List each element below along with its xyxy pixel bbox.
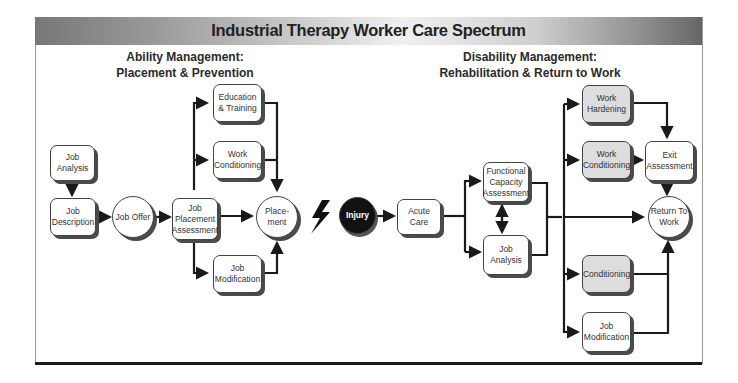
node-job-analysis-right: Job Analysis [483, 235, 529, 275]
node-work-conditioning-left: Work Conditioning [213, 141, 262, 179]
node-exit-assessment: Exit Assessment [645, 141, 694, 181]
node-education-training: Education & Training [213, 84, 262, 122]
node-placement: Place- ment [256, 196, 298, 238]
node-return-to-work: Return To Work [648, 196, 690, 238]
node-conditioning: Conditioning [582, 255, 631, 293]
node-job-modification-left: Job Modification [213, 255, 262, 293]
node-job-placement-assessment: Job Placement Assessment [172, 198, 218, 240]
node-job-modification-right: Job Modification [582, 312, 631, 352]
bottom-rule [35, 362, 702, 365]
node-job-description: Job Description [50, 198, 96, 236]
node-job-analysis-left: Job Analysis [50, 145, 95, 181]
node-acute-care: Acute Care [397, 199, 441, 235]
node-injury: Injury [339, 197, 376, 234]
lightning-bolt-icon [311, 200, 330, 234]
node-functional-capacity-assessment: Functional Capacity Assessment [483, 162, 529, 202]
node-job-offer: Job Offer [112, 196, 154, 238]
node-work-hardening: Work Hardening [582, 85, 631, 123]
node-work-conditioning-right: Work Conditioning [582, 141, 631, 179]
